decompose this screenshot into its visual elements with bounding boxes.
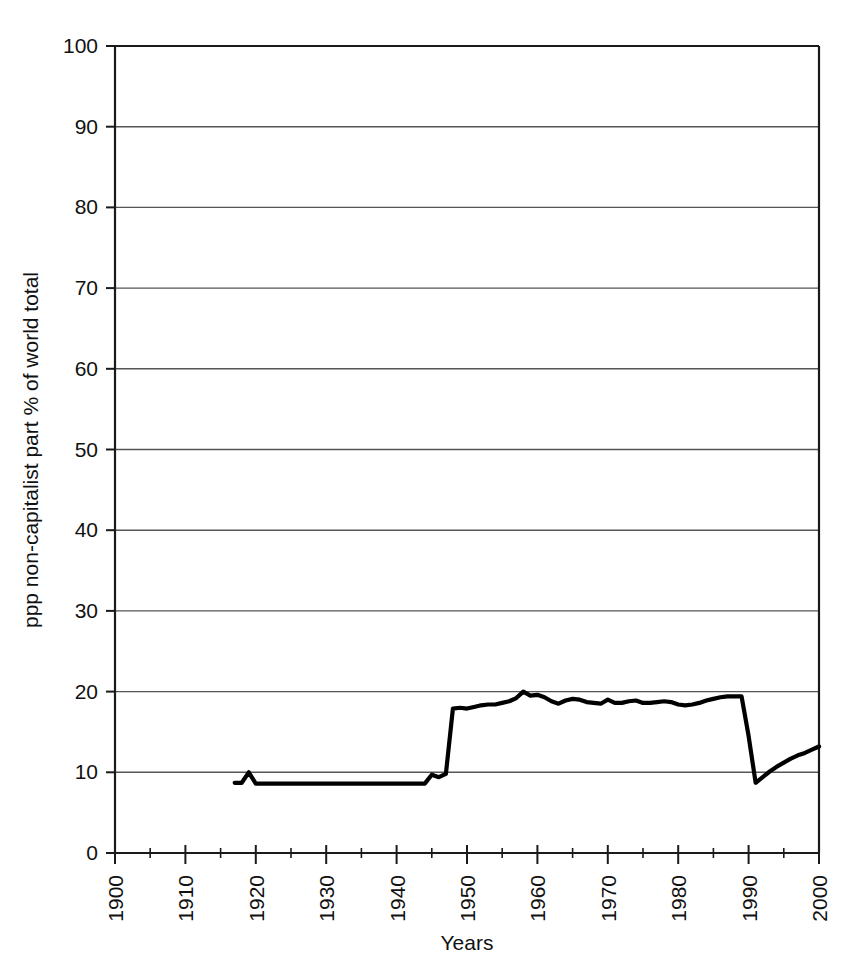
x-tick-label-1930: 1930 — [315, 875, 338, 922]
x-tick-label-1900: 1900 — [104, 875, 127, 922]
x-tick-label-1980: 1980 — [667, 875, 690, 922]
y-tick-label-90: 90 — [75, 115, 98, 138]
x-tick-label-1990: 1990 — [738, 875, 761, 922]
y-tick-label-0: 0 — [86, 841, 98, 864]
y-tick-label-80: 80 — [75, 195, 98, 218]
y-tick-label-60: 60 — [75, 357, 98, 380]
line-chart: 0102030405060708090100 19001910192019301… — [0, 0, 865, 980]
y-tick-label-70: 70 — [75, 276, 98, 299]
x-tick-label-1910: 1910 — [174, 875, 197, 922]
y-tick-label-20: 20 — [75, 680, 98, 703]
y-tick-label-40: 40 — [75, 518, 98, 541]
x-tick-label-1920: 1920 — [245, 875, 268, 922]
y-tick-label-30: 30 — [75, 599, 98, 622]
x-tick-label-1960: 1960 — [526, 875, 549, 922]
y-axis-title: ppp non-capitalist part % of world total — [19, 272, 42, 628]
y-tick-label-100: 100 — [63, 34, 98, 57]
x-axis-title: Years — [441, 931, 494, 954]
x-tick-label-1940: 1940 — [386, 875, 409, 922]
x-tick-label-1950: 1950 — [456, 875, 479, 922]
y-tick-label-10: 10 — [75, 760, 98, 783]
x-tick-label-2000: 2000 — [808, 875, 831, 922]
chart-background — [0, 0, 865, 980]
chart-figure: 0102030405060708090100 19001910192019301… — [0, 0, 865, 980]
y-tick-label-50: 50 — [75, 438, 98, 461]
x-tick-label-1970: 1970 — [597, 875, 620, 922]
